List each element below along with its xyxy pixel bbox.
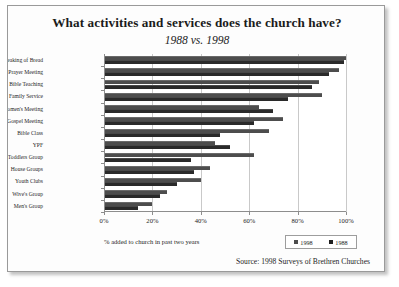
plot-area xyxy=(104,54,346,212)
y-axis-tick xyxy=(101,139,104,140)
bar-1988 xyxy=(104,170,194,174)
legend-item-1988: 1988 xyxy=(329,239,347,246)
x-axis-tick-label: 40% xyxy=(181,217,221,224)
legend-swatch-1998-icon xyxy=(294,240,298,244)
bar-group xyxy=(104,103,346,115)
bar-group xyxy=(104,90,346,102)
x-axis-tick-label: 100% xyxy=(326,217,366,224)
bar-1988 xyxy=(104,182,177,186)
source-note: Source: 1998 Surveys of Brethren Churche… xyxy=(8,257,370,266)
category-label: Men's Group xyxy=(7,203,43,209)
y-axis-tick xyxy=(101,115,104,116)
y-axis-tick xyxy=(101,66,104,67)
category-label: Youth Clubs xyxy=(7,178,43,184)
y-axis-tick xyxy=(101,78,104,79)
x-axis-tick xyxy=(298,212,299,215)
x-axis-tick xyxy=(104,212,105,215)
bar-1988 xyxy=(104,145,230,149)
y-axis-tick xyxy=(101,163,104,164)
y-axis-tick xyxy=(101,90,104,91)
category-label: Breaking of Bread xyxy=(7,57,43,63)
bar-group xyxy=(104,176,346,188)
bar-1988 xyxy=(104,133,220,137)
bar-1988 xyxy=(104,109,273,113)
y-axis-tick xyxy=(101,151,104,152)
chart-title: What activities and services does the ch… xyxy=(8,15,385,31)
bar-1988 xyxy=(104,158,191,162)
bar-1988 xyxy=(104,97,288,101)
x-axis-tick-label: 80% xyxy=(278,217,318,224)
bar-1988 xyxy=(104,194,160,198)
y-axis-tick xyxy=(101,103,104,104)
y-axis-tick xyxy=(101,200,104,201)
x-axis-tick xyxy=(346,212,347,215)
bar-1988 xyxy=(104,85,312,89)
x-axis-tick xyxy=(201,212,202,215)
category-label: Bible Teaching xyxy=(7,81,43,87)
bar-1988 xyxy=(104,121,254,125)
x-axis-tick-label: 0% xyxy=(84,217,124,224)
chart-frame: What activities and services does the ch… xyxy=(7,5,385,272)
chart-subtitle: 1988 vs. 1998 xyxy=(8,34,385,47)
category-label: Gospel Meeting xyxy=(7,118,43,124)
category-label: Prayer Meeting xyxy=(7,69,43,75)
x-axis-tick-label: 20% xyxy=(132,217,172,224)
y-axis-line xyxy=(104,54,105,212)
x-axis-title: % added to church in past two years xyxy=(104,238,304,245)
y-axis-tick xyxy=(101,188,104,189)
chart-legend: 1998 1988 xyxy=(285,235,357,249)
y-axis-tick xyxy=(101,176,104,177)
legend-swatch-1988-icon xyxy=(329,240,333,244)
bar-group xyxy=(104,127,346,139)
bar-group xyxy=(104,151,346,163)
category-label: House Groups xyxy=(7,166,43,172)
bar-group xyxy=(104,54,346,66)
legend-label-1998: 1998 xyxy=(300,239,312,246)
bar-1988 xyxy=(104,60,344,64)
category-label: Bible Class xyxy=(7,130,43,136)
category-label: Mums and Toddlers Group xyxy=(7,154,43,160)
bar-group xyxy=(104,78,346,90)
bar-group xyxy=(104,115,346,127)
x-axis-tick-label: 60% xyxy=(229,217,269,224)
category-label: Women's Meeting xyxy=(7,106,43,112)
legend-label-1988: 1988 xyxy=(335,239,347,246)
bar-group xyxy=(104,66,346,78)
x-axis-tick xyxy=(249,212,250,215)
category-label: YPF xyxy=(7,142,43,148)
y-axis-tick xyxy=(101,127,104,128)
legend-item-1998: 1998 xyxy=(294,239,312,246)
bar-group xyxy=(104,139,346,151)
bar-group xyxy=(104,188,346,200)
x-axis-line xyxy=(104,211,346,212)
category-label: Wive's Group xyxy=(7,191,43,197)
bar-group xyxy=(104,163,346,175)
gridline xyxy=(346,54,347,212)
category-label: Family Service xyxy=(7,93,43,99)
x-axis-tick xyxy=(152,212,153,215)
bar-1988 xyxy=(104,72,329,76)
bar-1988 xyxy=(104,206,138,210)
